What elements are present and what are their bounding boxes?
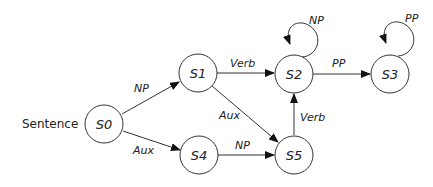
- edge-label-s2-s3: PP: [332, 57, 346, 70]
- edge-s0-s4: Aux: [123, 131, 180, 157]
- node-s0: S0: [85, 105, 123, 143]
- edge-s0-s1: NP: [122, 82, 179, 114]
- edge-label-s4-s5: NP: [235, 139, 250, 152]
- edge-s1-s2: Verb: [217, 57, 274, 73]
- node-label-s4: S4: [191, 148, 208, 163]
- node-label-s2: S2: [286, 67, 303, 82]
- edge-s3-self-loop: PP: [384, 12, 418, 56]
- edge-s2-self-loop: NP: [288, 14, 324, 57]
- state-transition-diagram: Sentence NP Aux Verb Aux NP Verb PP NP P…: [0, 0, 433, 187]
- node-label-s0: S0: [96, 117, 113, 132]
- edge-label-s0-s4: Aux: [132, 144, 154, 157]
- edge-s1-s5: Aux: [212, 86, 278, 142]
- edge-label-s1-s2: Verb: [230, 57, 255, 70]
- node-s5: S5: [275, 136, 313, 174]
- node-s3: S3: [371, 55, 409, 93]
- node-s4: S4: [180, 136, 218, 174]
- edge-s4-s5: NP: [218, 139, 274, 155]
- edge-label-s1-s5: Aux: [218, 109, 240, 122]
- edge-label-s3-self: PP: [405, 12, 419, 25]
- node-label-s3: S3: [382, 67, 399, 82]
- edge-label-s2-self: NP: [309, 14, 324, 27]
- start-label: Sentence: [22, 117, 78, 131]
- node-s1: S1: [179, 54, 217, 92]
- edge-label-s0-s1: NP: [134, 82, 149, 95]
- edge-s5-s2: Verb: [294, 94, 325, 135]
- node-label-s1: S1: [190, 66, 207, 81]
- edge-s2-s3: PP: [313, 57, 370, 74]
- node-s2: S2: [275, 55, 313, 93]
- node-label-s5: S5: [286, 148, 303, 163]
- edge-label-s5-s2: Verb: [300, 111, 325, 124]
